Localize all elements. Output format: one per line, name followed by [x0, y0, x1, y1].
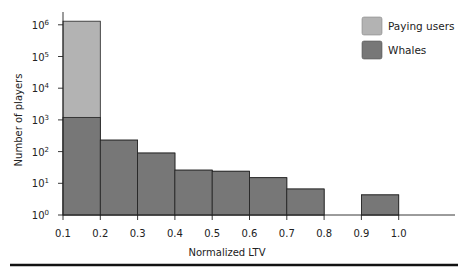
x-tick-label: 1.0 — [391, 228, 407, 239]
y-tick-label: 103 — [32, 114, 49, 126]
bar-whales — [138, 153, 175, 215]
bar-whales — [212, 171, 249, 215]
bar-whales — [250, 178, 287, 215]
y-tick-label: 105 — [32, 51, 49, 63]
y-axis-title: Number of players — [13, 74, 24, 167]
y-tick-label: 101 — [32, 177, 49, 189]
legend: Paying users Whales — [362, 17, 454, 59]
y-tick-label: 100 — [32, 209, 49, 221]
x-tick-label: 0.7 — [279, 228, 295, 239]
bar-whales — [361, 195, 398, 215]
y-tick-label: 102 — [32, 146, 49, 158]
legend-label-whales: Whales — [388, 44, 426, 56]
x-tick-label: 0.5 — [204, 228, 220, 239]
y-tick-label: 106 — [32, 19, 50, 31]
legend-swatch-paying-users — [362, 17, 382, 35]
x-tick-label: 0.2 — [92, 228, 108, 239]
x-tick-label: 0.9 — [353, 228, 369, 239]
x-tick-label: 0.8 — [316, 228, 332, 239]
x-tick-label: 0.6 — [242, 228, 258, 239]
legend-label-paying-users: Paying users — [388, 20, 454, 32]
bar-whales — [63, 117, 100, 215]
x-axis-title: Normalized LTV — [188, 247, 265, 258]
x-tick-label: 0.1 — [55, 228, 71, 239]
y-tick-label: 104 — [32, 82, 50, 94]
histogram-chart: 0.10.20.30.40.50.60.70.80.91.01001011021… — [0, 0, 467, 273]
legend-swatch-whales — [362, 41, 382, 59]
bar-whales — [100, 140, 137, 215]
bars-group — [63, 21, 399, 215]
bar-whales — [175, 170, 212, 215]
x-tick-label: 0.4 — [167, 228, 183, 239]
x-tick-label: 0.3 — [130, 228, 146, 239]
bar-whales — [287, 189, 324, 215]
